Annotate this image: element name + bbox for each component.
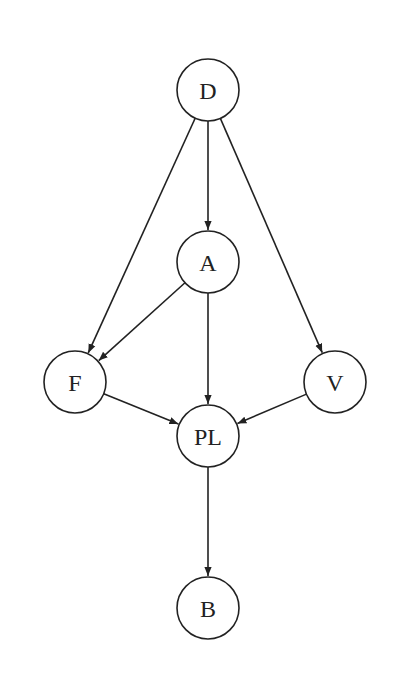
node-label: V — [326, 370, 344, 396]
node-pl: PL — [177, 405, 239, 467]
edge-a-to-f — [99, 283, 185, 361]
node-a: A — [177, 231, 239, 293]
node-f: F — [44, 351, 106, 413]
node-label: B — [200, 596, 216, 622]
node-b: B — [177, 577, 239, 639]
arrow-icon — [99, 283, 185, 361]
dag-diagram: DAFVPLB — [0, 0, 414, 684]
node-label: A — [199, 250, 217, 276]
node-v: V — [304, 351, 366, 413]
edge-d-to-v — [220, 118, 322, 352]
node-label: PL — [194, 424, 222, 450]
arrow-icon — [220, 118, 322, 352]
nodes: DAFVPLB — [44, 59, 366, 639]
node-label: D — [199, 78, 216, 104]
arrow-icon — [104, 394, 179, 424]
arrow-icon — [237, 394, 306, 423]
edge-d-to-f — [88, 118, 195, 353]
edges — [88, 118, 322, 576]
edge-f-to-pl — [104, 394, 179, 424]
node-d: D — [177, 59, 239, 121]
node-label: F — [68, 370, 81, 396]
edge-v-to-pl — [237, 394, 306, 423]
arrow-icon — [88, 118, 195, 353]
